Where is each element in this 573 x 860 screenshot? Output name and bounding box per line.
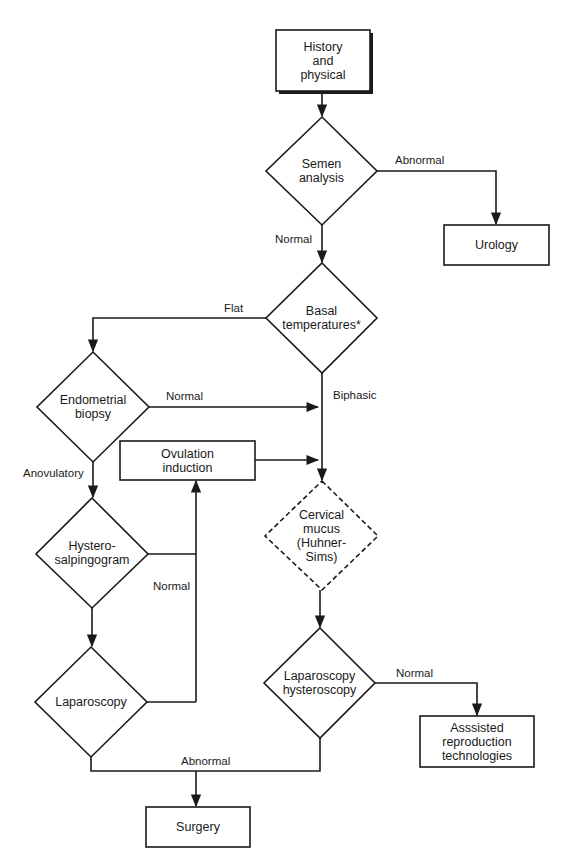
edge-label-endo-normal: Normal <box>166 390 203 403</box>
basal-label: Basal temperatures* <box>266 263 377 373</box>
history-label: History and physical <box>276 30 370 91</box>
hsg-label: Hystero- salpingogram <box>36 498 148 608</box>
edge-label-hsg-normal: Normal <box>153 580 190 593</box>
semen-label: Semen analysis <box>266 117 377 225</box>
surgery-label: Surgery <box>146 807 250 847</box>
edge-label-laphyst-normal: Normal <box>396 667 433 680</box>
edge-label-basal-biphasic: Biphasic <box>333 389 376 402</box>
ovulation-label: Ovulation induction <box>120 441 255 480</box>
edge-label-semen-abnormal: Abnormal <box>395 154 444 167</box>
edge-label-bottom-abnormal: Abnormal <box>181 755 230 768</box>
laparoscopy-label: Laparoscopy <box>35 647 147 757</box>
urology-label: Urology <box>444 225 549 265</box>
cervical-label: Cervical mucus (Huhner- Sims) <box>265 481 378 590</box>
edge-label-endo-anovulatory: Anovulatory <box>23 467 84 480</box>
laphyst-label: Laparoscopy hysteroscopy <box>264 628 375 738</box>
edge-label-basal-flat: Flat <box>224 302 243 315</box>
edge-label-semen-normal: Normal <box>275 233 312 246</box>
art-label: Asssisted reproduction technologies <box>420 716 534 767</box>
